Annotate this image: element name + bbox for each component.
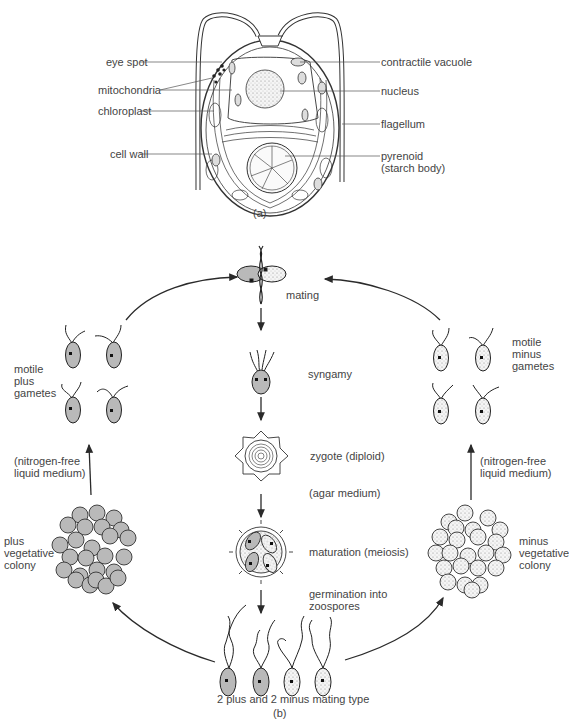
zoospores <box>220 605 331 696</box>
label-mitochondria: mitochondria <box>98 84 161 96</box>
label-plus-medium: (nitrogen-free liquid medium) <box>14 455 86 479</box>
plus-colony <box>52 505 136 594</box>
label-pyrenoid: pyrenoid (starch body) <box>381 150 445 174</box>
label-zygote: zygote (diploid) <box>310 450 385 462</box>
label-flagellum: flagellum <box>381 118 425 130</box>
syngamy-cell <box>250 350 274 394</box>
label-zoospores: 2 plus and 2 minus mating type <box>217 693 369 705</box>
minus-colony <box>428 505 511 598</box>
label-eye-spot: eye spot <box>106 56 148 68</box>
caption-a: (a) <box>253 207 266 219</box>
label-agar-medium: (agar medium) <box>309 487 381 499</box>
zygote <box>235 431 288 481</box>
nucleus-shape <box>246 70 284 108</box>
plus-gametes <box>62 325 128 423</box>
label-syngamy: syngamy <box>308 368 352 380</box>
caption-b: (b) <box>273 707 286 719</box>
label-plus-colony: plus vegetative colony <box>4 535 54 571</box>
label-minus-medium: (nitrogen-free liquid medium) <box>480 455 552 479</box>
label-minus-colony: minus vegetative colony <box>519 535 569 571</box>
label-nucleus: nucleus <box>381 85 419 97</box>
label-contractile-vacuole: contractile vacuole <box>381 56 472 68</box>
label-germination: germination into zoospores <box>309 588 387 612</box>
cell-diagram <box>198 15 342 216</box>
label-maturation: maturation (meiosis) <box>309 546 409 558</box>
label-plus-gametes: motile plus gametes <box>14 363 56 399</box>
label-chloroplast: chloroplast <box>98 105 151 117</box>
label-mating: mating <box>286 289 319 301</box>
mating-pair <box>237 246 286 304</box>
label-cell-wall: cell wall <box>110 148 149 160</box>
minus-gametes <box>433 328 499 424</box>
maturation-spore <box>229 520 293 584</box>
label-minus-gametes: motile minus gametes <box>512 336 554 372</box>
